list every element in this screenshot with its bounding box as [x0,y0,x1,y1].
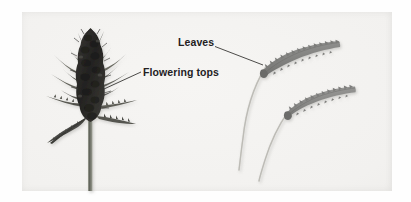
label-leaves: Leaves [178,36,214,48]
leader-line-leaves [215,47,263,66]
leaf-upper-petiole [239,68,265,170]
main-stem [88,118,92,191]
label-flowering-tops: Flowering tops [143,66,219,78]
specimen-leaf-lower [259,85,356,181]
leaf-upper-blade [262,41,340,76]
figure-illustration [0,0,411,202]
leaf-lower-blade [286,87,356,118]
figure-root: Leaves Flowering tops [0,0,411,202]
flowering-bud [70,29,111,122]
leader-line-flowering-tops [104,72,141,89]
specimen-flowering-top [46,28,137,191]
specimen-leaf-upper [239,40,340,170]
leaf-lower-petiole [259,112,288,181]
